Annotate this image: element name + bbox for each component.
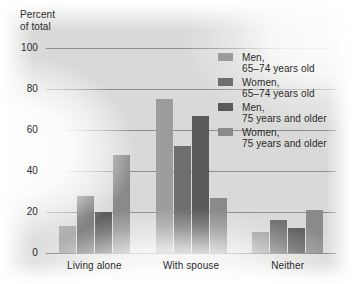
bar xyxy=(59,226,76,253)
legend-entry: Women,65–74 years old xyxy=(218,77,350,99)
legend-label-line2: 75 years and older xyxy=(242,113,350,124)
legend-entry: Men,65–74 years old xyxy=(218,52,350,74)
legend-swatch xyxy=(218,128,233,136)
y-axis-title-line2: of total xyxy=(20,21,55,33)
bar xyxy=(156,99,173,253)
legend-label-line1: Men, xyxy=(242,52,350,63)
legend-swatch xyxy=(218,103,233,111)
y-axis-title: Percent of total xyxy=(20,9,55,33)
y-axis-tick-label: 0 xyxy=(8,248,38,258)
bar xyxy=(252,232,269,253)
chart-legend: Men,65–74 years oldWomen,65–74 years old… xyxy=(218,52,350,152)
legend-swatch xyxy=(218,53,233,61)
legend-entry: Women,75 years and older xyxy=(218,127,350,149)
legend-swatch xyxy=(218,78,233,86)
x-axis-category-label: Neither xyxy=(228,260,348,271)
gridline xyxy=(46,253,336,254)
legend-label-line1: Men, xyxy=(242,102,350,113)
legend-label-line2: 65–74 years old xyxy=(242,63,350,74)
bar-chart-figure: Percent of total 020406080100 Living alo… xyxy=(0,0,352,284)
y-axis-tick-label: 60 xyxy=(8,125,38,135)
y-axis-tick-label: 20 xyxy=(8,207,38,217)
bar xyxy=(113,155,130,253)
bar xyxy=(77,196,94,253)
bar xyxy=(306,210,323,253)
legend-entry: Men,75 years and older xyxy=(218,102,350,124)
y-axis-tick-label: 80 xyxy=(8,84,38,94)
legend-label-line1: Women, xyxy=(242,77,350,88)
y-axis-tick-label: 40 xyxy=(8,166,38,176)
y-axis-title-line1: Percent xyxy=(20,9,55,21)
bar xyxy=(174,146,191,253)
bar xyxy=(192,116,209,253)
bar xyxy=(95,212,112,253)
legend-label-line2: 65–74 years old xyxy=(242,88,350,99)
bar xyxy=(288,228,305,253)
bar xyxy=(270,220,287,253)
legend-label-line2: 75 years and older xyxy=(242,138,350,149)
legend-label-line1: Women, xyxy=(242,127,350,138)
bar xyxy=(210,198,227,253)
y-axis-tick-label: 100 xyxy=(8,43,38,53)
